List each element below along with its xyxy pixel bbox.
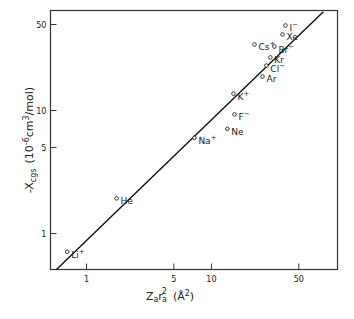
y-title-unit-b: cm bbox=[23, 120, 36, 137]
y-title-unit-c: /mol) bbox=[23, 87, 36, 116]
data-point-i bbox=[284, 24, 288, 28]
data-point-k bbox=[232, 92, 236, 96]
x-title-sup: 2 bbox=[162, 287, 167, 296]
data-label-li: Li+ bbox=[71, 248, 85, 260]
data-label-ar: Ar bbox=[266, 74, 276, 84]
data-points: Li+HeNa+NeF−K+ArCl−KrCs+Br−XeI− bbox=[65, 21, 298, 259]
x-title-sub2: a bbox=[162, 295, 167, 304]
y-tick-label: 50 bbox=[36, 20, 46, 30]
chart: 151050 151050 Li+HeNa+NeF−K+ArCl−KrCs+Br… bbox=[0, 0, 354, 319]
data-point-na bbox=[193, 136, 197, 140]
y-tick-label: 5 bbox=[41, 143, 46, 153]
y-tick-label: 10 bbox=[36, 106, 46, 116]
x-tick-label: 5 bbox=[171, 274, 176, 284]
data-label-k: K+ bbox=[237, 90, 249, 102]
data-label-br: Br− bbox=[278, 43, 294, 55]
data-point-li bbox=[65, 250, 69, 254]
y-title-sub: cgs bbox=[29, 169, 38, 183]
y-title-unit-exp: -6 bbox=[22, 137, 31, 145]
x-tick-label: 1 bbox=[84, 274, 89, 284]
x-tick-label: 50 bbox=[294, 274, 304, 284]
data-label-he: He bbox=[121, 196, 134, 206]
x-title-unit: (Å bbox=[173, 290, 185, 303]
data-point-cs bbox=[253, 43, 257, 47]
data-label-na: Na+ bbox=[198, 134, 216, 146]
data-point-cl bbox=[265, 64, 269, 68]
y-title-main: -X bbox=[23, 182, 36, 193]
data-point-kr bbox=[269, 56, 273, 60]
y-axis-title: -Xcgs(10-6cm3/mol) bbox=[22, 87, 38, 193]
data-label-ne: Ne bbox=[231, 127, 244, 137]
y-title-unit-a: (10 bbox=[23, 145, 36, 163]
data-point-f bbox=[233, 113, 237, 117]
data-label-f: F− bbox=[239, 110, 250, 122]
data-point-ne bbox=[226, 127, 230, 131]
x-title-unit-close: ) bbox=[190, 290, 194, 303]
x-axis-title: Zara2(Å2) bbox=[146, 287, 194, 304]
x-axis: 151050 bbox=[84, 264, 304, 284]
data-label-kr: Kr bbox=[274, 55, 284, 65]
y-axis: 151050 bbox=[36, 20, 56, 239]
data-point-xe bbox=[281, 33, 285, 37]
data-label-xe: Xe bbox=[286, 32, 298, 42]
x-tick-label: 10 bbox=[206, 274, 216, 284]
data-point-ar bbox=[261, 75, 265, 79]
y-tick-label: 1 bbox=[41, 229, 46, 239]
data-point-he bbox=[115, 197, 119, 201]
data-point-br bbox=[273, 45, 277, 49]
